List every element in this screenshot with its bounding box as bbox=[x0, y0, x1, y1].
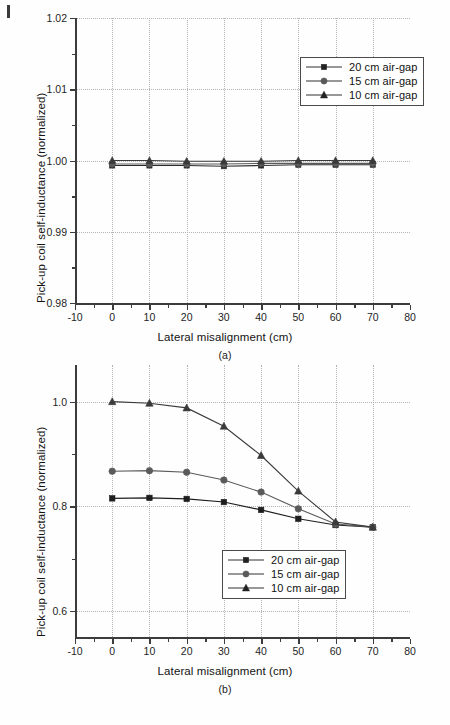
x-axis-tick-label: 20 bbox=[181, 645, 193, 657]
square-marker bbox=[226, 553, 266, 567]
chart-panel-a: 0.980.991.001.011.02-1001020304050607080… bbox=[0, 0, 450, 352]
legend-item-label: 10 cm air-gap bbox=[266, 582, 340, 594]
x-axis-minor-tick bbox=[317, 639, 318, 642]
y-axis-title-a: Pick-up coil self-inductance (normalized… bbox=[35, 92, 47, 303]
x-axis-tick-label: 10 bbox=[144, 645, 156, 657]
x-axis-tick bbox=[149, 305, 150, 310]
x-axis-tick bbox=[75, 305, 76, 310]
x-axis-tick-label: -10 bbox=[67, 311, 82, 323]
x-axis-tick-label: 70 bbox=[367, 311, 379, 323]
y-axis-tick-label: 1.02 bbox=[33, 12, 67, 24]
x-axis-tick bbox=[373, 639, 374, 644]
data-point-circle bbox=[295, 506, 302, 513]
x-axis-tick-label: 50 bbox=[292, 645, 304, 657]
x-axis-tick bbox=[410, 305, 411, 310]
data-point-square bbox=[221, 499, 226, 504]
legend-item-label: 15 cm air-gap bbox=[344, 75, 418, 87]
x-axis-tick-label: 80 bbox=[404, 311, 416, 323]
triangle-marker bbox=[304, 88, 344, 102]
x-axis-minor-tick bbox=[354, 305, 355, 308]
x-axis-minor-tick bbox=[243, 639, 244, 642]
panel-caption-b: (b) bbox=[0, 683, 450, 695]
x-axis-tick bbox=[261, 639, 262, 644]
legend-item-label: 15 cm air-gap bbox=[266, 568, 340, 580]
x-axis-tick-label: 20 bbox=[181, 311, 193, 323]
x-axis-minor-tick bbox=[317, 305, 318, 308]
y-axis-tick-label: 1.0 bbox=[33, 396, 67, 408]
circle-marker bbox=[226, 567, 266, 581]
legend-item-label: 20 cm air-gap bbox=[344, 61, 418, 73]
legend-item[interactable]: 10 cm air-gap bbox=[304, 88, 418, 102]
x-axis-tick-label: 40 bbox=[255, 311, 267, 323]
x-axis-minor-tick bbox=[391, 305, 392, 308]
x-axis-tick-label: 0 bbox=[109, 645, 115, 657]
data-point-square bbox=[296, 516, 301, 521]
x-axis-tick-label: 0 bbox=[109, 311, 115, 323]
x-axis-minor-tick bbox=[131, 305, 132, 308]
x-axis-tick bbox=[75, 639, 76, 644]
x-axis-tick bbox=[373, 305, 374, 310]
y-axis-title-b: Pick-up coil self-inductance (normalized… bbox=[35, 426, 47, 637]
legend-b[interactable]: 20 cm air-gap15 cm air-gap10 cm air-gap bbox=[222, 550, 346, 599]
x-axis-tick bbox=[187, 639, 188, 644]
legend-item[interactable]: 15 cm air-gap bbox=[304, 74, 418, 88]
circle-marker bbox=[304, 74, 344, 88]
data-point-square bbox=[147, 495, 152, 500]
data-point-circle bbox=[258, 489, 265, 496]
data-point-circle bbox=[183, 469, 190, 476]
x-axis-tick-label: 70 bbox=[367, 645, 379, 657]
x-axis-minor-tick bbox=[243, 305, 244, 308]
x-axis-tick-label: 30 bbox=[218, 645, 230, 657]
x-axis-minor-tick bbox=[205, 305, 206, 308]
x-axis-minor-tick bbox=[391, 639, 392, 642]
x-axis-tick bbox=[261, 305, 262, 310]
x-axis-tick bbox=[298, 305, 299, 310]
x-axis-title-a: Lateral misalignment (cm) bbox=[0, 331, 450, 343]
x-axis-tick-label: 30 bbox=[218, 311, 230, 323]
x-axis-minor-tick bbox=[205, 639, 206, 642]
series-line bbox=[112, 402, 373, 528]
square-marker bbox=[304, 60, 344, 74]
series-triangle bbox=[109, 157, 377, 164]
x-axis-tick-label: 40 bbox=[255, 645, 267, 657]
legend-a[interactable]: 20 cm air-gap15 cm air-gap10 cm air-gap bbox=[300, 57, 424, 106]
legend-item[interactable]: 15 cm air-gap bbox=[226, 567, 340, 581]
data-point-circle bbox=[146, 467, 153, 474]
x-axis-tick-label: 10 bbox=[144, 311, 156, 323]
x-axis-minor-tick bbox=[94, 305, 95, 308]
chart-panel-b: 0.60.81.0-1001020304050607080 Pick-up co… bbox=[0, 352, 450, 725]
x-axis-minor-tick bbox=[354, 639, 355, 642]
triangle-marker bbox=[226, 581, 266, 595]
x-axis-minor-tick bbox=[94, 639, 95, 642]
data-point-square bbox=[258, 507, 263, 512]
legend-item[interactable]: 20 cm air-gap bbox=[226, 553, 340, 567]
x-axis-tick-label: -10 bbox=[67, 645, 82, 657]
x-axis-tick bbox=[112, 305, 113, 310]
x-axis-tick-label: 80 bbox=[404, 645, 416, 657]
x-axis-tick bbox=[187, 305, 188, 310]
data-point-square bbox=[184, 496, 189, 501]
legend-item[interactable]: 10 cm air-gap bbox=[226, 581, 340, 595]
legend-item-label: 10 cm air-gap bbox=[344, 89, 418, 101]
data-point-triangle bbox=[220, 422, 227, 429]
x-axis-tick bbox=[410, 639, 411, 644]
data-point-triangle bbox=[257, 452, 264, 459]
x-axis-tick bbox=[112, 639, 113, 644]
data-point-circle bbox=[109, 468, 116, 475]
legend-item[interactable]: 20 cm air-gap bbox=[304, 60, 418, 74]
x-axis-tick bbox=[336, 639, 337, 644]
data-point-square bbox=[109, 496, 114, 501]
x-axis-tick-label: 50 bbox=[292, 311, 304, 323]
x-axis-minor-tick bbox=[280, 639, 281, 642]
figure-page: 0.980.991.001.011.02-1001020304050607080… bbox=[0, 0, 450, 725]
x-axis-minor-tick bbox=[131, 639, 132, 642]
x-axis-minor-tick bbox=[280, 305, 281, 308]
x-axis-title-b: Lateral misalignment (cm) bbox=[0, 665, 450, 677]
data-point-circle bbox=[221, 477, 228, 484]
x-axis-tick bbox=[224, 305, 225, 310]
x-axis-tick bbox=[336, 305, 337, 310]
series-triangle bbox=[109, 398, 377, 530]
x-axis-tick bbox=[149, 639, 150, 644]
x-axis-tick bbox=[224, 639, 225, 644]
x-axis-tick-label: 60 bbox=[330, 311, 342, 323]
